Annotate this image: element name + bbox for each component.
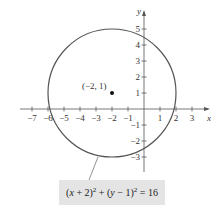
x-tick-label: 2 — [174, 113, 179, 123]
y-axis-label: y — [136, 6, 141, 16]
y-tick-label: −2 — [130, 136, 140, 146]
x-tick-label: 3 — [190, 113, 195, 123]
x-tick-label: −5 — [59, 113, 69, 123]
x-tick-label: −2 — [107, 113, 117, 123]
x-axis-label: x — [206, 113, 211, 123]
y-tick-label: 3 — [136, 56, 141, 66]
leader-line — [89, 157, 98, 180]
y-tick-label: 5 — [136, 24, 141, 34]
center-point — [110, 91, 114, 95]
graph-canvas: −7−6−5−4−3−2−1123 54321−1−2−3 x y (−2, 1… — [0, 0, 222, 210]
y-tick-label: 4 — [136, 40, 141, 50]
x-tick-label: −6 — [43, 113, 53, 123]
x-axis-arrow-icon — [204, 107, 210, 111]
y-tick-label: −1 — [130, 120, 140, 130]
y-tick-label: 1 — [136, 88, 141, 98]
x-tick-label: −7 — [27, 113, 37, 123]
equation-box: (x + 2)2 + (y − 1)2 = 16 — [59, 180, 165, 205]
y-ticks: 54321−1−2−3 — [130, 24, 146, 162]
y-axis-arrow-icon — [142, 10, 146, 16]
x-tick-label: 1 — [158, 113, 163, 123]
x-tick-label: −4 — [75, 113, 85, 123]
y-tick-label: 2 — [136, 72, 141, 82]
y-tick-label: −3 — [130, 152, 140, 162]
x-tick-label: −3 — [91, 113, 101, 123]
equation-text: (x + 2)2 + (y − 1)2 = 16 — [66, 186, 158, 198]
center-label: (−2, 1) — [82, 81, 107, 91]
